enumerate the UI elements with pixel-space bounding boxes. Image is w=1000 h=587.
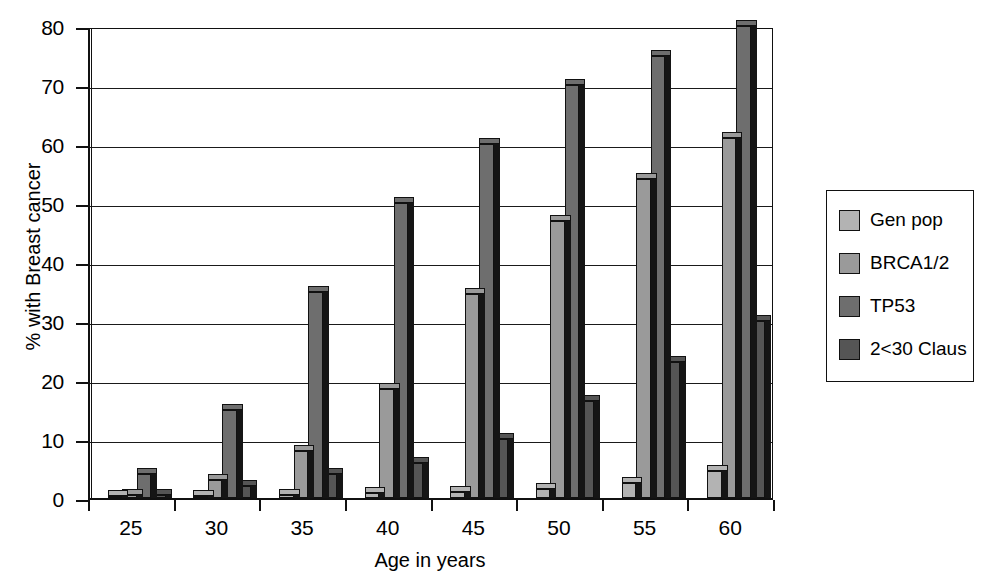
legend-label: BRCA1/2 (870, 252, 949, 274)
x-tick-mark (431, 500, 433, 511)
bar (536, 483, 551, 498)
bar-side-face (665, 55, 671, 499)
bar-front-face (536, 489, 551, 498)
legend-label: 2<30 Claus (870, 338, 967, 360)
bar-front-face (108, 496, 123, 498)
bar-front-face (707, 471, 722, 498)
bar (279, 489, 294, 498)
bar-side-face (222, 479, 228, 498)
bar (622, 477, 637, 498)
y-tick-mark (76, 441, 88, 443)
bar-side-face (565, 220, 571, 498)
x-tick-mark (259, 500, 261, 511)
bar-side-face (237, 409, 243, 499)
bar-side-face (594, 400, 600, 498)
bar-side-face (765, 320, 771, 498)
x-tick-label: 40 (343, 516, 433, 540)
bar-side-face (736, 137, 742, 498)
x-tick-label: 45 (428, 516, 518, 540)
bar (707, 465, 722, 498)
bar (379, 383, 394, 498)
x-tick-mark (516, 500, 518, 511)
axis-inner-line (91, 28, 92, 500)
y-tick-label: 40 (18, 253, 64, 274)
y-tick-label: 80 (18, 17, 64, 38)
legend: Gen popBRCA1/2TP532<30 Claus (826, 190, 974, 382)
y-tick-label: 60 (18, 135, 64, 156)
bar-side-face (636, 482, 642, 498)
y-tick-mark (76, 500, 88, 502)
y-tick-label: 50 (18, 194, 64, 215)
x-tick-label: 55 (600, 516, 690, 540)
bar-side-face (494, 143, 500, 498)
x-tick-mark (174, 500, 176, 511)
legend-item[interactable]: TP53 (839, 293, 915, 319)
bar-side-face (651, 178, 657, 498)
x-tick-label: 60 (685, 516, 775, 540)
x-tick-mark (687, 500, 689, 511)
bar-front-face (365, 493, 380, 498)
bar-side-face (408, 202, 414, 498)
bar (465, 288, 480, 498)
legend-item[interactable]: BRCA1/2 (839, 250, 949, 276)
legend-swatch (839, 253, 860, 274)
y-tick-mark (76, 264, 88, 266)
bar-side-face (680, 361, 686, 498)
legend-item[interactable]: Gen pop (839, 207, 943, 233)
bar-side-face (479, 293, 485, 498)
bar (108, 490, 123, 498)
bar-side-face (251, 485, 257, 498)
bar-front-face (622, 483, 637, 498)
bar-side-face (508, 438, 514, 498)
y-tick-label: 30 (18, 312, 64, 333)
x-tick-label: 30 (171, 516, 261, 540)
y-tick-label: 0 (18, 489, 64, 510)
bar-side-face (722, 470, 728, 498)
x-tick-label: 50 (514, 516, 604, 540)
bar-side-face (308, 450, 314, 498)
bar-front-face (450, 492, 465, 498)
bar-side-face (337, 473, 343, 498)
x-axis-title: Age in years (0, 549, 860, 572)
x-tick-mark (602, 500, 604, 511)
bar-front-face (465, 294, 480, 498)
legend-swatch (839, 339, 860, 360)
bar-front-face (379, 389, 394, 498)
bar-front-face (279, 495, 294, 498)
y-tick-label: 70 (18, 76, 64, 97)
y-tick-label: 20 (18, 371, 64, 392)
bar-side-face (550, 488, 556, 498)
legend-swatch (839, 210, 860, 231)
bar (722, 132, 737, 498)
bar-side-face (579, 84, 585, 498)
bar-side-face (423, 462, 429, 498)
bar-front-face (636, 179, 651, 498)
bar (550, 215, 565, 498)
y-tick-mark (76, 87, 88, 89)
bar-side-face (751, 25, 757, 498)
bar (365, 487, 380, 498)
x-tick-mark (88, 500, 90, 511)
x-tick-label: 35 (257, 516, 347, 540)
legend-label: TP53 (870, 295, 915, 317)
bar (450, 486, 465, 498)
bar-front-face (722, 138, 737, 498)
y-tick-label: 10 (18, 430, 64, 451)
y-tick-mark (76, 28, 88, 30)
y-tick-mark (76, 323, 88, 325)
legend-swatch (839, 296, 860, 317)
x-tick-label: 25 (86, 516, 176, 540)
bar-front-face (193, 496, 208, 498)
y-tick-mark (76, 205, 88, 207)
y-tick-mark (76, 382, 88, 384)
x-tick-mark (345, 500, 347, 511)
bar (636, 173, 651, 498)
legend-item[interactable]: 2<30 Claus (839, 336, 967, 362)
bar-chart-figure: % with Breast cancer 01020304050607080 2… (0, 0, 1000, 587)
y-tick-mark (76, 146, 88, 148)
plot-area (88, 28, 773, 500)
bar-side-face (323, 291, 329, 499)
bar-front-face (550, 221, 565, 498)
bar-side-face (394, 388, 400, 498)
bar (193, 490, 208, 498)
